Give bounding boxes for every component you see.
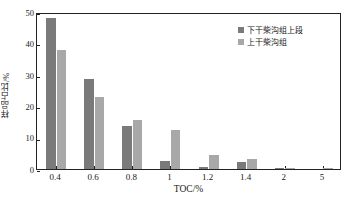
y-tick-label: 40 <box>26 40 35 49</box>
x-axis-title: TOC/% <box>36 184 341 195</box>
y-axis-title: 样品占比/% <box>2 55 16 135</box>
bar <box>122 126 132 169</box>
legend-entry: 上干柴沟组 <box>238 37 338 47</box>
x-tick-label: 1.4 <box>240 172 251 182</box>
x-tick-label: 0.6 <box>88 172 99 182</box>
bar <box>275 168 285 169</box>
y-tick-label: 20 <box>26 103 35 112</box>
bar <box>237 162 247 169</box>
legend-entry: 下干柴沟组上段 <box>238 25 338 35</box>
y-tick-label: 50 <box>26 9 35 18</box>
bar <box>160 161 170 169</box>
legend-label: 下干柴沟组上段 <box>247 26 303 35</box>
bar <box>171 130 181 169</box>
bar <box>323 168 333 169</box>
y-tick-label: 10 <box>26 134 35 143</box>
legend-swatch-icon <box>238 39 244 45</box>
y-axis-tick-labels: 01020304050 <box>17 10 34 170</box>
bar <box>84 79 94 169</box>
bar <box>285 168 295 169</box>
x-tick-label: 1 <box>167 172 172 182</box>
x-tick-label: 0.8 <box>126 172 137 182</box>
bar <box>247 159 257 169</box>
x-tick-label: 5 <box>320 172 325 182</box>
bar-chart-figure: 样品占比/% 01020304050 0.40.60.811.21.425 TO… <box>0 0 353 200</box>
legend-swatch-icon <box>238 27 244 33</box>
chart-legend: 下干柴沟组上段上干柴沟组 <box>238 25 338 49</box>
bar <box>133 120 143 169</box>
y-tick-label: 0 <box>30 166 34 175</box>
bar <box>95 97 105 169</box>
x-tick-label: 2 <box>282 172 287 182</box>
x-tick-label: 1.2 <box>202 172 213 182</box>
bar <box>57 50 67 169</box>
x-tick-label: 0.4 <box>49 172 60 182</box>
legend-label: 上干柴沟组 <box>247 38 287 47</box>
y-tick-label: 30 <box>26 72 35 81</box>
x-axis-tick-labels: 0.40.60.811.21.425 <box>36 172 341 184</box>
bar <box>199 167 209 169</box>
bar <box>46 18 56 169</box>
bar <box>209 155 219 169</box>
